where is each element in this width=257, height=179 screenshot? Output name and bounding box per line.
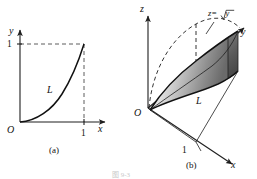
panel-b-surface-body xyxy=(150,37,228,110)
panel-b-x-tick-label: 1 xyxy=(182,145,187,155)
panel-a-curve-label: L xyxy=(46,84,53,95)
panel-a-y-tick-label: 1 xyxy=(7,39,12,49)
panel-a: y x O 1 1 L (a) xyxy=(7,25,105,155)
panel-b-marker-line-left xyxy=(150,110,196,142)
panel-b-z-axis-label: z xyxy=(139,3,144,14)
panel-b: z= y z y x O 1 L (b) xyxy=(134,3,246,170)
panel-a-x-axis-label: x xyxy=(97,123,103,134)
panel-a-caption: (a) xyxy=(49,145,59,155)
panel-b-surface-equation-radicand: y xyxy=(225,8,230,18)
panel-b-x-axis xyxy=(148,108,232,164)
panel-a-origin-label: O xyxy=(7,124,14,135)
panel-b-equation-leader xyxy=(206,22,214,34)
panel-a-y-axis-label: y xyxy=(8,25,14,36)
panel-b-x-axis-label: x xyxy=(230,159,236,170)
panel-b-caption: (b) xyxy=(186,160,197,170)
panel-b-surface-equation: z= xyxy=(207,8,217,18)
panel-b-y-axis-label: y xyxy=(240,26,246,37)
figure-container: y x O 1 1 L (a) xyxy=(0,0,257,179)
panel-b-curve-label: L xyxy=(195,95,202,106)
panel-a-curve-L xyxy=(20,44,84,122)
panel-a-x-tick-label: 1 xyxy=(81,128,86,138)
panel-b-origin-label: O xyxy=(134,107,141,118)
panel-b-surface-equation-group: z= y xyxy=(207,8,234,20)
figure-number: 图 9-3 xyxy=(112,171,131,179)
figure-svg: y x O 1 1 L (a) xyxy=(0,0,257,179)
